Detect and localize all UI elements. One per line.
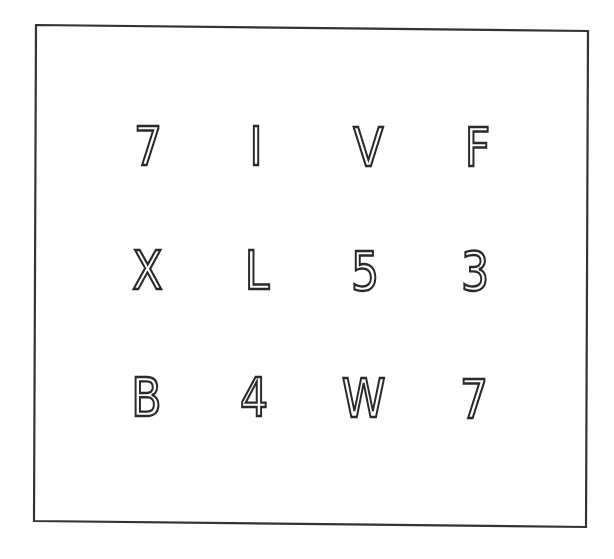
grid-cell-r2-c1: 4 <box>224 370 284 426</box>
grid-cell-r0-c0: 7 <box>118 119 178 175</box>
grid-cell-r1-c0: X <box>117 243 177 299</box>
grid-cell-r2-c0: B <box>117 370 177 426</box>
grid-cell-r0-c2: V <box>338 120 398 176</box>
stimulus-frame <box>0 0 614 559</box>
grid-cell-r1-c2: 5 <box>335 244 395 300</box>
grid-char: X <box>132 243 162 299</box>
grid-char: 7 <box>460 372 488 428</box>
grid-char: L <box>245 243 270 299</box>
grid-char: V <box>353 120 383 176</box>
grid-cell-r1-c3: 3 <box>445 244 505 300</box>
grid-cell-r1-c1: L <box>227 243 287 299</box>
grid-cell-r2-c3: 7 <box>444 372 504 428</box>
letter-grid-stimulus-card: 7 I V F X L 5 3 B 4 W 7 <box>0 0 614 559</box>
grid-cell-r0-c3: F <box>448 120 508 176</box>
grid-char: 5 <box>351 244 379 300</box>
grid-cell-r2-c2: W <box>334 371 394 427</box>
grid-cell-r0-c1: I <box>226 119 286 175</box>
grid-char: 4 <box>240 370 268 426</box>
grid-char: F <box>465 120 490 176</box>
grid-char: 7 <box>134 119 162 175</box>
grid-char: W <box>342 371 386 427</box>
grid-char: I <box>249 119 262 175</box>
grid-char: 3 <box>461 244 489 300</box>
grid-char: B <box>132 370 162 426</box>
